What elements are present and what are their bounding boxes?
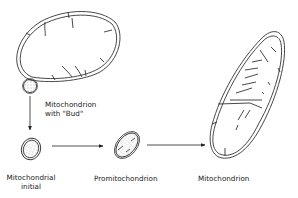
mitochondrial-initial	[18, 135, 43, 162]
mature-mitochondrion	[210, 32, 284, 159]
label-bud-line2: with "Bud"	[45, 109, 83, 118]
promitochondrion	[109, 127, 144, 164]
diagram-canvas	[0, 0, 298, 198]
label-mitochondrion: Mitochondrion	[198, 174, 249, 183]
bud	[23, 79, 38, 94]
label-initial-line2: initial	[3, 182, 59, 191]
label-initial-line1: Mitochondrial	[3, 173, 59, 182]
label-promitochondrion: Promitochondrion	[94, 174, 158, 183]
parent-mitochondrion	[17, 12, 120, 82]
label-bud-line1: Mitochondrion	[45, 100, 96, 109]
